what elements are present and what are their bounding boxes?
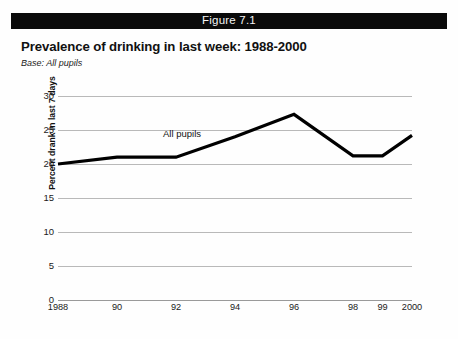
y-tick-label-5: 5 xyxy=(32,261,54,271)
x-tick-label-94: 94 xyxy=(230,303,240,312)
y-tick-label-20: 20 xyxy=(32,159,54,169)
series-annotation-all-pupils: All pupils xyxy=(163,128,201,139)
figure-container: Figure 7.1 Prevalence of drinking in las… xyxy=(0,0,458,339)
x-tick-label-1988: 1988 xyxy=(48,303,68,312)
chart-title: Prevalence of drinking in last week: 198… xyxy=(21,39,307,54)
x-tick-label-2000: 2000 xyxy=(402,303,422,312)
x-tick-label-90: 90 xyxy=(112,303,122,312)
figure-number-label: Figure 7.1 xyxy=(202,15,256,27)
x-tick-label-99: 99 xyxy=(377,303,387,312)
plot-area xyxy=(58,96,412,300)
x-axis-tick-labels: 19889092949698992000 xyxy=(58,303,412,317)
y-tick-label-10: 10 xyxy=(32,227,54,237)
y-axis-tick-labels: 051015202530 xyxy=(30,96,54,300)
x-tick-label-92: 92 xyxy=(171,303,181,312)
y-tick-label-30: 30 xyxy=(32,91,54,101)
gridline-0 xyxy=(58,300,412,301)
x-tick-label-98: 98 xyxy=(348,303,358,312)
series-line-chart xyxy=(58,96,412,300)
y-tick-label-15: 15 xyxy=(32,193,54,203)
series-line-all-pupils xyxy=(58,114,412,164)
x-tick-label-96: 96 xyxy=(289,303,299,312)
figure-number-banner: Figure 7.1 xyxy=(11,13,447,29)
y-tick-label-25: 25 xyxy=(32,125,54,135)
